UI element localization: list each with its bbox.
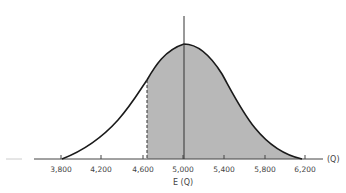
tick-label-3800: 3,800 xyxy=(50,165,72,174)
distribution-chart: 3,800 4,200 4,600 5,000 5,400 5,800 6,20… xyxy=(0,0,346,193)
x-axis-label: (Q) xyxy=(327,155,340,164)
tick-label-5000: 5,000 xyxy=(172,165,194,174)
tick-label-6200: 6,200 xyxy=(294,165,316,174)
tick-label-5400: 5,400 xyxy=(213,165,235,174)
tick-label-5800: 5,800 xyxy=(254,165,276,174)
mean-label: E (Q) xyxy=(173,178,193,187)
tick-label-4600: 4,600 xyxy=(132,165,154,174)
tick-labels: 3,800 4,200 4,600 5,000 5,400 5,800 6,20… xyxy=(50,165,316,174)
tick-label-4200: 4,200 xyxy=(90,165,112,174)
shaded-area xyxy=(147,44,302,159)
